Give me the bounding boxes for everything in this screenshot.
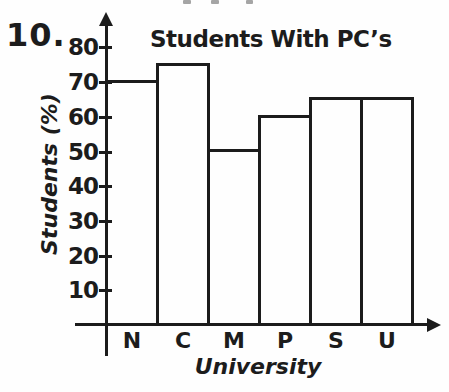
y-tick-mark (99, 185, 112, 188)
x-axis-arrowhead-icon (427, 318, 441, 332)
y-tick-mark (99, 289, 112, 292)
x-tick-label: N (112, 328, 152, 353)
bar-S (309, 97, 363, 323)
y-tick-label: 40 (46, 173, 98, 199)
x-tick-label: S (316, 328, 356, 353)
x-tick-label: P (265, 328, 305, 353)
x-axis-line (75, 323, 428, 326)
scan-artifact (183, 0, 191, 4)
y-tick-mark (99, 116, 112, 119)
textbook-figure: 10. Students With PC’s University Studen… (0, 0, 449, 392)
y-tick-mark (99, 255, 112, 258)
scan-artifact (246, 0, 253, 4)
y-tick-label: 50 (46, 139, 98, 165)
bars (105, 40, 420, 323)
y-tick-mark (99, 220, 112, 223)
bar-U (360, 97, 414, 323)
y-tick-label: 10 (46, 277, 98, 303)
y-tick-label: 70 (46, 69, 98, 95)
y-tick-label: 60 (46, 104, 98, 130)
bar-C (156, 63, 210, 323)
y-tick-label: 80 (46, 34, 98, 60)
bar-M (207, 149, 261, 323)
y-tick-label: 20 (46, 243, 98, 269)
x-tick-label: C (163, 328, 203, 353)
y-tick-mark (99, 151, 112, 154)
y-tick-mark (99, 81, 112, 84)
bar-N (105, 80, 159, 323)
y-tick-label: 30 (46, 208, 98, 234)
bar-P (258, 115, 312, 323)
x-tick-label: M (214, 328, 254, 353)
x-tick-label: U (367, 328, 407, 353)
x-axis-title: University (158, 354, 358, 379)
y-tick-mark (99, 46, 112, 49)
scan-artifact (211, 0, 219, 4)
